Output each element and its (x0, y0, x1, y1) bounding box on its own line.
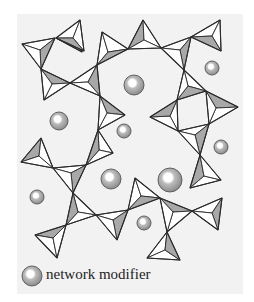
network-modifier-ion (50, 112, 68, 130)
network-modifier-ion (205, 61, 219, 75)
network-modifier-ion (124, 75, 144, 95)
legend-modifier-icon (22, 266, 42, 286)
legend-swatch (22, 266, 42, 286)
glass-network-diagram (0, 0, 254, 302)
network-modifier-ion (214, 140, 228, 154)
network-modifier-ion (158, 168, 182, 192)
legend-label: network modifier (46, 266, 151, 283)
network-modifier-ion (117, 124, 131, 138)
network-modifier-ion (101, 169, 121, 189)
network-modifier-ion (30, 190, 44, 204)
network-modifier-ion (137, 216, 151, 230)
